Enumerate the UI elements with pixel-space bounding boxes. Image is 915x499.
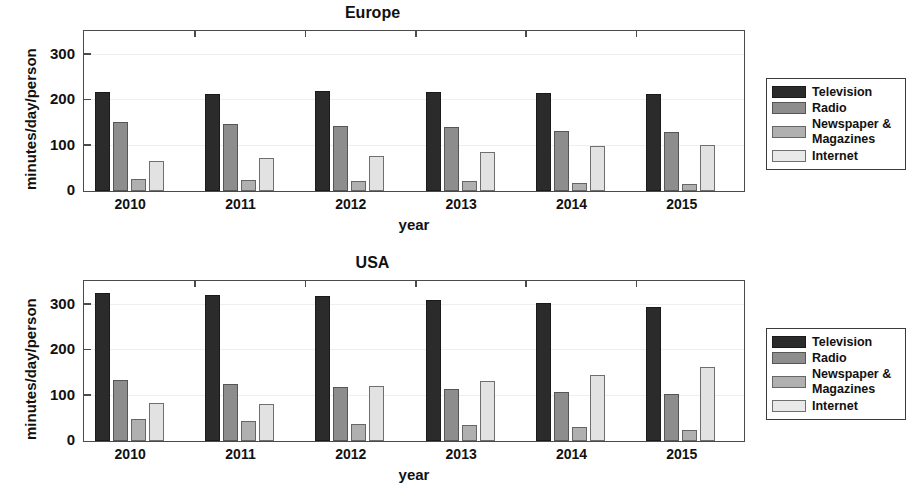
y-tick-mark: [84, 53, 91, 55]
legend-label: Television: [812, 335, 872, 350]
bar-television-2014: [536, 93, 551, 191]
bar-internet-2014: [590, 375, 605, 441]
bar-radio-2010: [113, 380, 128, 441]
x-tick-label-2013: 2013: [426, 446, 496, 462]
legend-item-radio[interactable]: Radio: [772, 350, 899, 366]
legend-label: Radio: [812, 351, 847, 366]
bar-internet-2010: [149, 161, 164, 191]
bar-newspaper-2012: [351, 181, 366, 191]
gridline: [84, 145, 744, 146]
x-tick-label-2012: 2012: [316, 446, 386, 462]
x-tick-label-2014: 2014: [537, 196, 607, 212]
legend-item-newspaper[interactable]: Newspaper &Magazines: [772, 116, 899, 148]
y-axis-label: minutes/day/person: [22, 298, 39, 440]
legend-label: Newspaper &Magazines: [812, 367, 891, 397]
bar-radio-2013: [444, 127, 459, 191]
bar-radio-2013: [444, 389, 459, 441]
y-tick-mark: [84, 394, 91, 396]
y-tick-mark: [84, 303, 91, 305]
plot-area: [83, 280, 745, 442]
bar-newspaper-2013: [462, 425, 477, 441]
legend-item-television[interactable]: Television: [772, 84, 899, 100]
bar-television-2010: [95, 293, 110, 441]
y-tick-mark: [84, 144, 91, 146]
legend-label-line1: Television: [812, 85, 872, 100]
bar-newspaper-2014: [572, 183, 587, 191]
x-axis-label: year: [354, 466, 474, 483]
bar-internet-2012: [369, 156, 384, 191]
x-tick-label-2010: 2010: [95, 446, 165, 462]
x-tick-mark: [194, 31, 196, 37]
x-tick-mark: [636, 31, 638, 37]
legend-label: Television: [812, 85, 872, 100]
bar-internet-2013: [480, 381, 495, 441]
bar-newspaper-2010: [131, 419, 146, 441]
legend: TelevisionRadioNewspaper &MagazinesInter…: [766, 328, 906, 420]
legend-label-line1: Newspaper &: [812, 117, 891, 132]
legend-swatch-television-icon: [772, 336, 806, 348]
legend-swatch-newspaper-icon: [772, 376, 806, 388]
gridline: [84, 395, 744, 396]
x-tick-mark: [305, 31, 307, 37]
bar-radio-2015: [664, 394, 679, 441]
bar-radio-2015: [664, 132, 679, 191]
legend-label: Radio: [812, 101, 847, 116]
x-tick-label-2010: 2010: [95, 196, 165, 212]
bar-radio-2012: [333, 387, 348, 442]
x-tick-mark: [525, 31, 527, 37]
bar-newspaper-2013: [462, 181, 477, 191]
bar-television-2014: [536, 303, 551, 441]
bar-newspaper-2015: [682, 184, 697, 191]
x-tick-label-2011: 2011: [206, 196, 276, 212]
legend-label: Internet: [812, 399, 858, 414]
bar-television-2011: [205, 94, 220, 191]
x-tick-mark: [636, 281, 638, 287]
legend-item-internet[interactable]: Internet: [772, 148, 899, 164]
legend-label-line2: Magazines: [812, 382, 891, 397]
bar-television-2012: [315, 296, 330, 441]
bar-radio-2010: [113, 122, 128, 191]
bar-radio-2011: [223, 384, 238, 441]
gridline: [84, 54, 744, 55]
x-tick-label-2014: 2014: [537, 446, 607, 462]
gridline: [84, 349, 744, 350]
bar-radio-2014: [554, 131, 569, 191]
y-tick-mark: [84, 99, 91, 101]
legend-label-line1: Radio: [812, 101, 847, 116]
x-tick-mark: [194, 281, 196, 287]
bar-radio-2011: [223, 124, 238, 191]
bar-internet-2012: [369, 386, 384, 441]
bar-newspaper-2012: [351, 424, 366, 441]
chart-panel-europe: Europe0100200300minutes/day/person201020…: [0, 0, 915, 249]
bar-television-2015: [646, 94, 661, 191]
legend-label: Internet: [812, 149, 858, 164]
x-tick-mark: [415, 31, 417, 37]
x-tick-label-2013: 2013: [426, 196, 496, 212]
legend-swatch-internet-icon: [772, 150, 806, 162]
x-tick-label-2015: 2015: [647, 446, 717, 462]
legend-item-television[interactable]: Television: [772, 334, 899, 350]
legend-label-line1: Newspaper &: [812, 367, 891, 382]
legend-swatch-radio-icon: [772, 352, 806, 364]
x-axis-label: year: [354, 216, 474, 233]
chart-panel-usa: USA0100200300minutes/day/person201020112…: [0, 250, 915, 499]
bar-internet-2014: [590, 146, 605, 191]
bar-television-2013: [426, 92, 441, 191]
legend-item-internet[interactable]: Internet: [772, 398, 899, 414]
legend-item-newspaper[interactable]: Newspaper &Magazines: [772, 366, 899, 398]
legend-label: Newspaper &Magazines: [812, 117, 891, 147]
bar-television-2013: [426, 300, 441, 441]
chart-title: USA: [0, 254, 745, 272]
bar-newspaper-2015: [682, 430, 697, 441]
bar-newspaper-2011: [241, 180, 256, 191]
bar-radio-2012: [333, 126, 348, 191]
bar-internet-2010: [149, 403, 164, 441]
x-tick-mark: [415, 281, 417, 287]
x-tick-mark: [305, 281, 307, 287]
legend-item-radio[interactable]: Radio: [772, 100, 899, 116]
x-tick-mark: [525, 281, 527, 287]
x-tick-label-2011: 2011: [206, 446, 276, 462]
legend-label-line1: Internet: [812, 399, 858, 414]
plot-area: [83, 30, 745, 192]
bar-newspaper-2014: [572, 427, 587, 441]
